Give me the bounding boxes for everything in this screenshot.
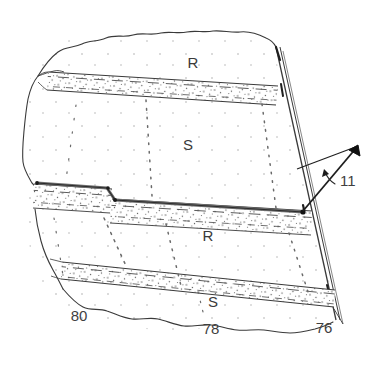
shale-label-lower: S (208, 293, 218, 310)
geological-cross-section-drawing: R S R S 11 80 78 76 (0, 0, 376, 367)
rock-label-upper: R (188, 54, 199, 71)
ref-numeral-78: 78 (203, 320, 220, 337)
ref-numeral-80: 80 (71, 307, 88, 324)
seam-node-step (106, 186, 110, 190)
seam-node-knee (113, 198, 117, 202)
seam-node-left (35, 181, 39, 185)
rock-label-lower: R (203, 227, 214, 244)
shale-label-upper: S (183, 136, 193, 153)
figure-container: R S R S 11 80 78 76 (0, 0, 376, 367)
ref-numeral-76: 76 (316, 319, 333, 336)
leader-arrowhead-11 (322, 169, 329, 177)
ref-numeral-11: 11 (340, 172, 356, 189)
